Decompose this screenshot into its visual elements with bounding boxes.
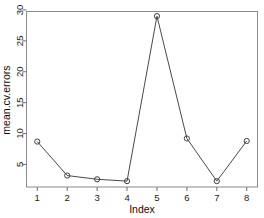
y-tick-label: 30 (14, 5, 25, 16)
x-tick-label: 7 (214, 192, 219, 203)
y-tick-label: 10 (14, 128, 25, 139)
x-tick-label: 6 (184, 192, 189, 203)
x-tick-label: 1 (35, 192, 40, 203)
x-tick-label: 4 (124, 192, 129, 203)
y-axis-title: mean.cv.errors (0, 65, 12, 134)
chart-background (0, 0, 264, 218)
y-tick-label: 20 (14, 66, 25, 77)
chart-container: 51015202530 12345678 Index mean.cv.error… (0, 0, 264, 218)
y-tick-label: 15 (14, 97, 25, 108)
y-tick-label: 25 (14, 36, 25, 47)
y-tick-label: 5 (14, 162, 25, 167)
x-tick-label: 8 (244, 192, 249, 203)
x-tick-label: 2 (65, 192, 70, 203)
line-chart: 51015202530 12345678 Index mean.cv.error… (0, 0, 264, 218)
x-tick-label: 5 (154, 192, 159, 203)
x-axis-title: Index (129, 203, 155, 215)
x-tick-label: 3 (94, 192, 99, 203)
